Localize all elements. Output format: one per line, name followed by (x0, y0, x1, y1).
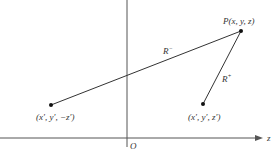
r-plus-label: R+ (221, 73, 232, 84)
r-minus-label: R− (162, 45, 173, 56)
z-axis-arrowhead (255, 135, 263, 141)
source-label: (x′, y′, z′) (188, 112, 220, 122)
field-point-p (239, 29, 243, 33)
r-plus-segment (203, 31, 241, 104)
diagram-canvas: z O P(x, y, z) (x′, y′, −z′) (x′, y′, z′… (0, 0, 276, 158)
field-point-label: P(x, y, z) (222, 16, 255, 26)
source-point (201, 102, 205, 106)
r-minus-sup: − (169, 45, 173, 51)
r-minus-segment (51, 31, 241, 105)
r-plus-sup: + (228, 73, 232, 79)
origin-label: O (130, 141, 137, 151)
image-source-point (49, 103, 53, 107)
z-axis-label: z (266, 133, 271, 143)
image-source-label: (x′, y′, −z′) (36, 112, 74, 122)
